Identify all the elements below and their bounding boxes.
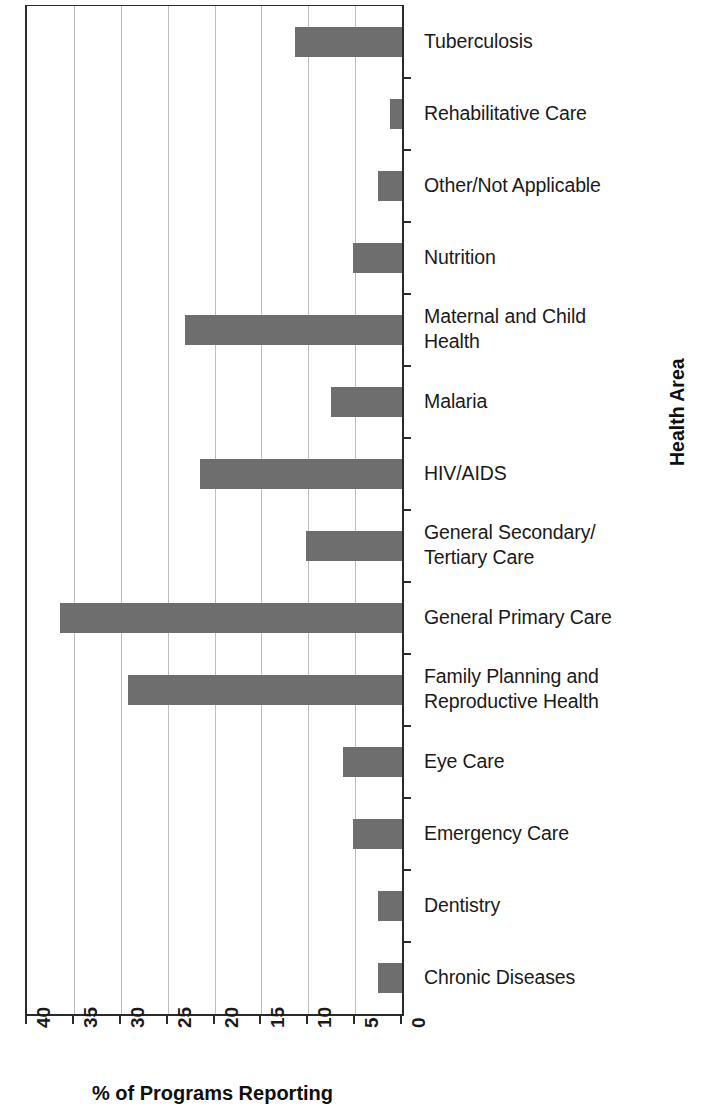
x-axis-tick — [400, 1015, 402, 1024]
gridline — [74, 6, 75, 1014]
x-axis-tick-label: 0 — [408, 1017, 430, 1028]
y-axis-tick — [402, 869, 411, 871]
gridline — [168, 6, 169, 1014]
y-axis-tick — [402, 581, 411, 583]
bar — [60, 603, 402, 633]
bar — [378, 963, 402, 993]
bar — [390, 99, 402, 129]
bar — [200, 459, 403, 489]
category-label: Maternal and Child Health — [424, 304, 586, 354]
category-label: Malaria — [424, 389, 487, 414]
x-axis-tick — [72, 1015, 74, 1024]
x-axis-tick-label: 25 — [174, 1007, 196, 1028]
category-label: HIV/AIDS — [424, 461, 507, 486]
x-axis-tick-label: 15 — [267, 1007, 289, 1028]
x-axis-title: % of Programs Reporting — [25, 1082, 400, 1105]
plot-area — [25, 5, 404, 1016]
bar — [378, 171, 402, 201]
category-label: General Secondary/ Tertiary Care — [424, 520, 596, 570]
y-axis-tick — [402, 293, 411, 295]
y-axis-tick — [402, 509, 411, 511]
x-axis-tick — [119, 1015, 121, 1024]
x-axis-tick — [259, 1015, 261, 1024]
gridline — [121, 6, 122, 1014]
x-axis-tick — [25, 1015, 27, 1024]
bar — [306, 531, 402, 561]
bar — [331, 387, 402, 417]
category-label: Dentistry — [424, 893, 500, 918]
y-axis-tick — [402, 437, 411, 439]
y-axis-tick — [402, 77, 411, 79]
bar — [353, 819, 402, 849]
category-label: Family Planning and Reproductive Health — [424, 664, 599, 714]
bar — [353, 243, 402, 273]
category-label: Eye Care — [424, 749, 505, 774]
y-axis-tick — [402, 797, 411, 799]
gridline — [308, 6, 309, 1014]
horizontal-bar-chart: % of Programs Reporting Health Area Tube… — [0, 0, 707, 1113]
category-label: Emergency Care — [424, 821, 569, 846]
bar — [378, 891, 402, 921]
gridline — [355, 6, 356, 1014]
category-label: Chronic Diseases — [424, 965, 575, 990]
y-axis-tick — [402, 725, 411, 727]
x-axis-tick-label: 5 — [361, 1017, 383, 1028]
x-axis-tick — [166, 1015, 168, 1024]
y-axis-tick — [402, 149, 411, 151]
x-axis-tick-label: 40 — [33, 1007, 55, 1028]
x-axis-tick — [213, 1015, 215, 1024]
x-axis-tick-label: 30 — [127, 1007, 149, 1028]
gridline — [215, 6, 216, 1014]
y-axis-tick — [402, 221, 411, 223]
y-axis-title: Health Area — [666, 358, 689, 466]
x-axis-tick-label: 20 — [221, 1007, 243, 1028]
x-axis-tick-label: 35 — [80, 1007, 102, 1028]
bar — [185, 315, 402, 345]
bar — [343, 747, 402, 777]
x-axis-tick — [353, 1015, 355, 1024]
bar — [128, 675, 402, 705]
category-label: General Primary Care — [424, 605, 612, 630]
category-label: Tuberculosis — [424, 29, 533, 54]
y-axis-tick — [402, 941, 411, 943]
category-label: Nutrition — [424, 245, 496, 270]
gridline — [261, 6, 262, 1014]
category-label: Rehabilitative Care — [424, 101, 587, 126]
x-axis-tick-label: 10 — [314, 1007, 336, 1028]
bar — [295, 27, 402, 57]
category-label: Other/Not Applicable — [424, 173, 601, 198]
y-axis-tick — [402, 365, 411, 367]
y-axis-tick — [402, 653, 411, 655]
x-axis-tick — [306, 1015, 308, 1024]
